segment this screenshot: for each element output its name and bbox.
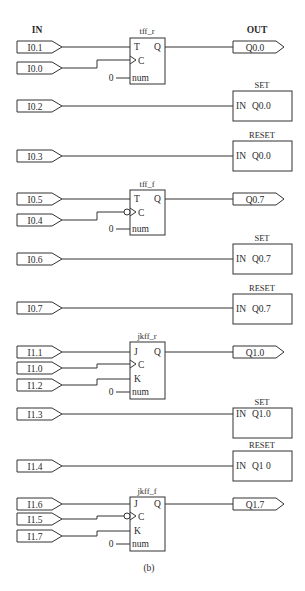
pin-num: num	[132, 224, 150, 234]
pin-t: T	[134, 42, 140, 52]
block-target: Q1.0	[252, 409, 271, 419]
block-title: RESET	[249, 283, 276, 293]
pin-k: K	[134, 526, 141, 536]
pin-q: Q	[154, 347, 161, 357]
input-tag-label: I1.4	[27, 462, 42, 472]
num-const: 0	[109, 539, 114, 549]
pin-c: C	[138, 360, 144, 370]
pin-num: num	[132, 73, 150, 83]
input-tag-label: I0.6	[27, 255, 42, 265]
input-tag-label: I1.3	[27, 410, 42, 420]
input-tag-label: I0.5	[27, 195, 42, 205]
block-title: SET	[254, 397, 270, 407]
flipflop-tff-f: tff_f T Q C num I0.5 I0.4 0 Q0.7	[17, 179, 284, 235]
inverter-bubble-icon	[124, 209, 130, 215]
pin-q: Q	[154, 194, 161, 204]
set-block-q00: SET IN Q0.0 I0.2	[17, 80, 292, 121]
out-header: OUT	[247, 25, 268, 35]
pin-num: num	[132, 387, 150, 397]
set-block-q10: SET IN Q1.0 I1.3	[17, 397, 292, 438]
pin-num: num	[132, 539, 150, 549]
block-in-pin: IN	[236, 304, 246, 314]
block-in-pin: IN	[236, 254, 246, 264]
block-title: SET	[254, 233, 270, 243]
pin-q: Q	[154, 42, 161, 52]
reset-block-q10: RESET IN Q1 0 I1.4	[17, 440, 292, 481]
input-tag-label: I0.3	[27, 152, 42, 162]
input-tag-label: I0.2	[27, 102, 42, 112]
block-target: Q0.7	[252, 254, 271, 264]
input-tag-label: I1.2	[27, 381, 42, 391]
pin-q: Q	[154, 499, 161, 509]
flipflop-jkff-f: jkff_f J Q C K num I1.6 I1.5 I1.7 0 Q1.7	[17, 486, 284, 551]
input-tag-label: I1.7	[27, 532, 42, 542]
reset-block-q07: RESET IN Q0.7 I0.7	[17, 283, 292, 324]
block-label: jkff_f	[136, 486, 156, 496]
num-const: 0	[109, 73, 114, 83]
input-tag-label: I0.1	[27, 43, 42, 53]
set-block-q07: SET IN Q0.7 I0.6	[17, 233, 292, 274]
pin-t: T	[134, 194, 140, 204]
block-target: Q0.0	[252, 151, 271, 161]
num-const: 0	[109, 387, 114, 397]
block-title: RESET	[249, 130, 276, 140]
block-in-pin: IN	[236, 101, 246, 111]
pin-j: J	[134, 499, 138, 509]
in-header: IN	[32, 25, 43, 35]
block-label: tff_f	[140, 179, 155, 189]
figure-caption: (b)	[143, 563, 154, 574]
output-tag-label: Q1.0	[246, 348, 265, 358]
pin-c: C	[138, 512, 144, 522]
block-in-pin: IN	[236, 409, 246, 419]
block-target: Q1 0	[252, 461, 271, 471]
block-in-pin: IN	[236, 461, 246, 471]
block-title: RESET	[249, 440, 276, 450]
block-label: jkff_r	[136, 331, 156, 341]
block-target: Q0.7	[252, 304, 271, 314]
block-title: SET	[254, 80, 270, 90]
reset-block-q00: RESET IN Q0.0 I0.3	[17, 130, 292, 171]
input-tag-label: I1.1	[27, 348, 42, 358]
ladder-diagram: IN OUT tff_r T Q C num I0.1 I0.0 0 Q0.0 …	[0, 0, 305, 591]
flipflop-jkff-r: jkff_r J Q C K num I1.1 I1.0 I1.2 0 Q1.0	[17, 331, 284, 399]
input-tag-label: I0.7	[27, 304, 42, 314]
block-in-pin: IN	[236, 151, 246, 161]
num-const: 0	[109, 224, 114, 234]
pin-c: C	[138, 208, 144, 218]
output-tag-label: Q0.7	[246, 195, 265, 205]
block-label: tff_r	[140, 26, 155, 36]
pin-c: C	[138, 56, 144, 66]
input-tag-label: I1.5	[27, 515, 42, 525]
flipflop-tff-r: tff_r T Q C num I0.1 I0.0 0 Q0.0	[17, 26, 284, 84]
pin-j: J	[134, 347, 138, 357]
input-tag-label: I1.6	[27, 500, 42, 510]
block-target: Q0.0	[252, 101, 271, 111]
output-tag-label: Q1.7	[246, 500, 265, 510]
input-tag-label: I0.0	[27, 64, 42, 74]
inverter-bubble-icon	[124, 513, 130, 519]
input-tag-label: I1.0	[27, 364, 42, 374]
output-tag-label: Q0.0	[246, 43, 265, 53]
input-tag-label: I0.4	[27, 216, 42, 226]
pin-k: K	[134, 374, 141, 384]
